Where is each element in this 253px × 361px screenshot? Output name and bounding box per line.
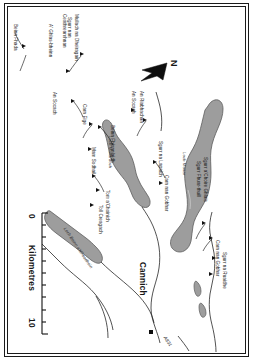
peak-label-sgurr-na-ruaidhe: Sgurr na Ruaidhe (221, 252, 226, 289)
map-figure: Beinn Fhada A' Ghlas-bheinn Mullach na D… (0, 0, 253, 361)
peak-label-mam-sodhail: Mam Sodhail (90, 147, 95, 174)
peak-label-an-riabhachan: An Riabhachan (138, 91, 143, 123)
map-canvas (0, 0, 253, 361)
peak-label-a-ghlas-bheinn: A' Ghlas-bheinn (47, 24, 52, 57)
peak-label-an-socach-east: An Socach (130, 91, 135, 114)
peak-marker-sgurr-nan-ceathreamhnan (71, 99, 75, 103)
peak-label-sgurr-a-choire-ghlais: Sgurr a'Choire Ghlais (202, 157, 207, 202)
peak-label-carn-nan-gobhar-west: Carn nan Gobhar (163, 175, 168, 211)
peak-label-ceathreamhnan: Ceathreamhnan (61, 14, 66, 48)
town-label-cannich: Cannich (138, 262, 146, 296)
peak-marker-sgurr-fhuar-thuill (202, 221, 206, 225)
town-marker-cannich (149, 330, 153, 334)
peak-label-mullach-na-dheiragain: Mullach na Dheiragain (73, 14, 78, 61)
peak-label-toll-creagach: Toll Creagach (97, 205, 102, 234)
north-arrow-label: N (169, 60, 178, 67)
peak-marker-tom-a-choinich (96, 188, 100, 192)
peak-label-beinn-fhada: Beinn Fhada (12, 24, 17, 51)
scale-bar-graphic (42, 213, 48, 334)
peak-marker-beinn-fhada (22, 44, 26, 48)
peak-marker-mullach-na-dheiragain (80, 52, 84, 56)
peak-label-sgurr-nan: Sgurr nan (66, 17, 71, 38)
peak-label-carn-nan-gobhar-east: Carn nan Gobhar (214, 240, 219, 276)
loch-fragment-a (194, 281, 201, 296)
loch-label-monar: Loch Monar (182, 152, 186, 175)
peak-label-carn-eige: Carn Eige (81, 104, 86, 125)
scale-label-max: 10 (28, 318, 36, 328)
north-arrow-glyph (141, 63, 167, 81)
peak-marker-sgurr-a-choire-ghlais (209, 236, 213, 240)
peak-label-sgurr-fhuar-thuill: Sgurr Fhuar-thuill (195, 161, 200, 197)
peak-marker-mam-sodhail (92, 174, 96, 178)
peak-marker-sgurr-na-lapaich (153, 160, 157, 164)
peak-marker-sgurr-na-ruaidhe (209, 272, 213, 276)
peak-label-sgurr-na-lapaich: Sgurr na Lapaich (157, 141, 162, 177)
peak-label-tom-a-choinich: Tom a'Choinich (104, 190, 109, 222)
peak-marker-an-socach-west (89, 122, 93, 126)
peak-marker-carn-nan-gobhar-west (159, 181, 163, 185)
loch-fragment-b (199, 303, 206, 317)
peak-marker-a-ghlas-bheinn (66, 69, 70, 73)
peak-marker-carn-eige (98, 125, 102, 129)
scale-label-units: Kilometres (28, 245, 36, 291)
peak-label-an-socach-west: An Socach (51, 92, 56, 115)
peak-marker-toll-creagach (90, 203, 94, 207)
scale-label-min: 0 (28, 214, 36, 219)
loch-label-mullardoch: Loch Mullardoch (108, 136, 112, 168)
